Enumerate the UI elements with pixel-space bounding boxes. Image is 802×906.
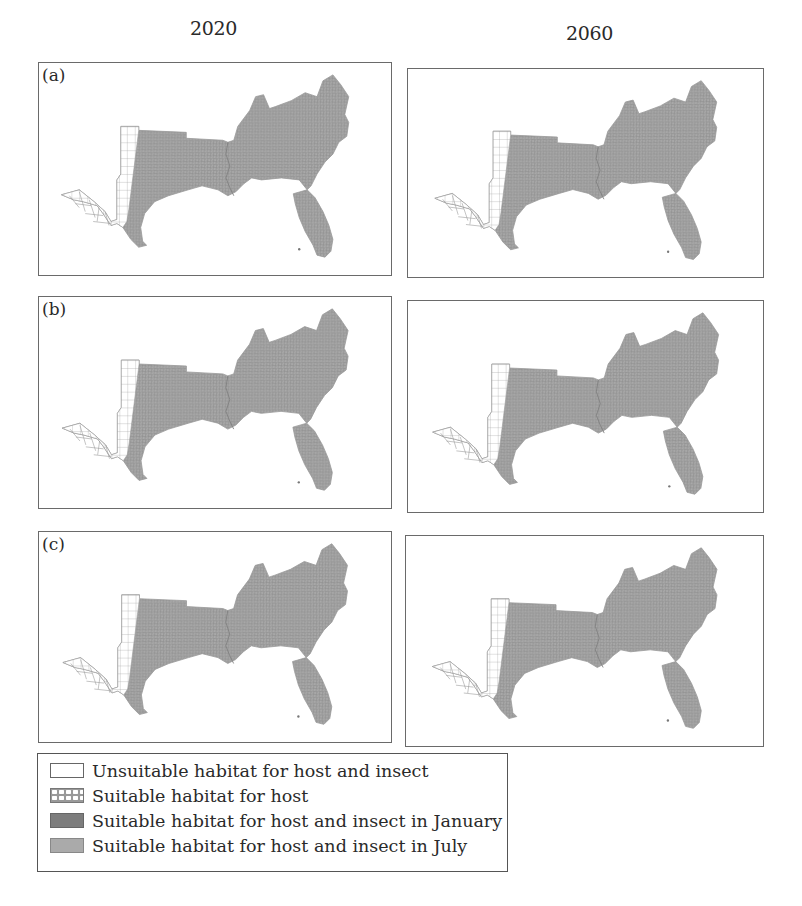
- southern-us-map: [39, 63, 391, 275]
- swatch-dark-gray-icon: [50, 813, 84, 828]
- map-panel-b-2060: [407, 300, 764, 513]
- legend-item-unsuitable: Unsuitable habitat for host and insect: [50, 758, 507, 783]
- swatch-unsuitable-icon: [50, 763, 84, 778]
- panel-label-a: (a): [42, 65, 65, 85]
- legend-label: Suitable habitat for host and insect in …: [92, 836, 467, 856]
- map-panel-c-2020: (c): [38, 531, 392, 743]
- southern-us-map: [39, 297, 391, 508]
- map-panel-a-2020: (a): [38, 62, 392, 276]
- map-panel-c-2060: [405, 535, 764, 747]
- legend-item-host: Suitable habitat for host: [50, 783, 507, 808]
- swatch-crosshatch-icon: [50, 788, 84, 803]
- column-title-2060: 2060: [566, 22, 613, 44]
- map-panel-a-2060: [407, 68, 764, 278]
- legend-label: Unsuitable habitat for host and insect: [92, 761, 428, 781]
- column-title-2020: 2020: [190, 17, 237, 39]
- legend-item-january: Suitable habitat for host and insect in …: [50, 808, 507, 833]
- swatch-light-gray-icon: [50, 838, 84, 853]
- southern-us-map: [39, 532, 391, 742]
- map-legend: Unsuitable habitat for host and insect S…: [37, 753, 508, 872]
- southern-us-map: [406, 536, 763, 746]
- legend-item-july: Suitable habitat for host and insect in …: [50, 833, 507, 858]
- panel-label-c: (c): [42, 534, 65, 554]
- legend-label: Suitable habitat for host and insect in …: [92, 811, 502, 831]
- southern-us-map: [408, 301, 763, 512]
- southern-us-map: [408, 69, 763, 277]
- map-panel-b-2020: (b): [38, 296, 392, 509]
- legend-label: Suitable habitat for host: [92, 786, 308, 806]
- panel-label-b: (b): [42, 299, 66, 319]
